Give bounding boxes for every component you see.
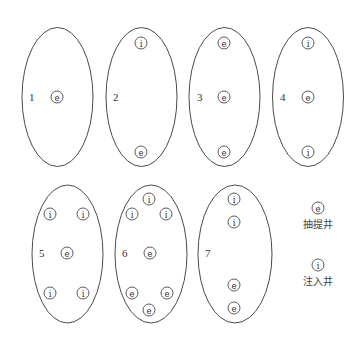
well-symbol: i [131, 210, 134, 220]
well-symbol: i [148, 195, 151, 205]
pattern-label: 5 [39, 247, 45, 259]
injection-well: i [228, 193, 240, 205]
pattern-label: 1 [29, 91, 35, 103]
extraction-well: e [228, 279, 240, 291]
extraction-well: e [218, 91, 230, 103]
well-symbol: i [82, 289, 85, 299]
injection-well: i [126, 208, 138, 220]
well-symbol: e [146, 306, 151, 316]
well-symbol: e [231, 304, 236, 314]
pattern-4: 4iei [273, 28, 344, 167]
well-symbol: e [54, 93, 59, 103]
extraction-well: e [228, 302, 240, 314]
pattern-3: 3eee [189, 28, 260, 167]
legend-item-injection: i注入井 [303, 259, 333, 287]
well-symbol: i [317, 261, 320, 271]
injection-well: i [302, 37, 314, 49]
legend: e抽提井i注入井 [303, 202, 333, 287]
legend-symbol: i [312, 259, 324, 271]
well-symbol: e [231, 281, 236, 291]
injection-well: i [160, 208, 172, 220]
injection-well: i [44, 208, 56, 220]
well-symbol: i [233, 195, 236, 205]
extraction-well: e [144, 247, 156, 259]
well-symbol: e [147, 249, 152, 259]
injection-well: i [302, 146, 314, 158]
well-symbol: i [82, 210, 85, 220]
well-symbol: e [64, 249, 69, 259]
extraction-well: e [135, 146, 147, 158]
legend-label: 抽提井 [303, 218, 333, 230]
extraction-well: e [161, 287, 173, 299]
extraction-well: e [51, 91, 63, 103]
injection-well: i [44, 287, 56, 299]
pattern-label: 7 [205, 247, 211, 259]
well-symbol: e [129, 289, 134, 299]
well-symbol: i [49, 289, 52, 299]
pattern-label: 6 [122, 247, 128, 259]
well-symbol: i [307, 39, 310, 49]
well-symbol: e [164, 289, 169, 299]
legend-symbol: e [312, 202, 324, 214]
extraction-well: e [61, 247, 73, 259]
legend-label: 注入井 [303, 275, 333, 287]
injection-well: i [135, 37, 147, 49]
injection-well: i [77, 208, 89, 220]
pattern-label: 2 [113, 91, 119, 103]
well-symbol: e [221, 39, 226, 49]
well-symbol: e [315, 204, 320, 214]
well-symbol: i [233, 218, 236, 228]
well-symbol: e [221, 93, 226, 103]
well-symbol: i [140, 39, 143, 49]
well-symbol: i [165, 210, 168, 220]
injection-well: i [143, 193, 155, 205]
well-symbol: e [221, 148, 226, 158]
pattern-label: 3 [197, 91, 203, 103]
pattern-5: 5iieii [32, 185, 103, 323]
extraction-well: e [143, 304, 155, 316]
well-symbol: i [307, 148, 310, 158]
legend-item-extraction: e抽提井 [303, 202, 333, 230]
extraction-well: e [126, 287, 138, 299]
pattern-6: 6iiieeee [115, 185, 187, 323]
well-symbol: e [138, 148, 143, 158]
patterns-group: 1e2ie3eee4iei5iieii6iiieeee7iiee [22, 28, 344, 324]
extraction-well: e [302, 91, 314, 103]
pattern-label: 4 [280, 91, 286, 103]
injection-well: i [228, 216, 240, 228]
well-pattern-diagram: 1e2ie3eee4iei5iieii6iiieeee7iiee e抽提井i注入… [0, 0, 364, 339]
well-symbol: i [49, 210, 52, 220]
pattern-1: 1e [22, 28, 93, 167]
extraction-well: e [218, 146, 230, 158]
extraction-well: e [218, 37, 230, 49]
well-symbol: e [305, 93, 310, 103]
pattern-2: 2ie [106, 28, 177, 167]
injection-well: i [77, 287, 89, 299]
pattern-7: 7iiee [198, 185, 272, 323]
